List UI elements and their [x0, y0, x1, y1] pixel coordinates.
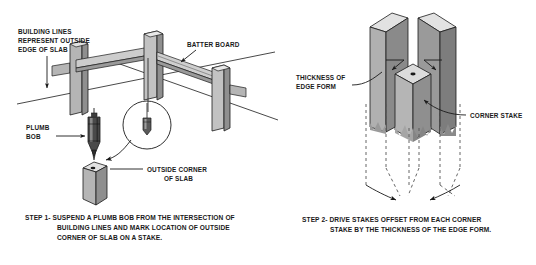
- corner-stake-label: CORNER STAKE: [470, 112, 523, 119]
- figure-root: BUILDING LINES REPRESENT OUTSIDE EDGE OF…: [0, 0, 536, 265]
- building-lines-label-line2: REPRESENT OUTSIDE: [18, 37, 90, 44]
- label-outside-corner: OUTSIDE CORNER OF SLAB: [110, 166, 207, 182]
- corner-stake-left-panel: [83, 162, 107, 205]
- step-1-caption-line1: STEP 1- SUSPEND A PLUMB BOB FROM THE INT…: [25, 214, 235, 221]
- step-1-caption: STEP 1- SUSPEND A PLUMB BOB FROM THE INT…: [25, 214, 235, 241]
- plumb-bob-label-line1: PLUMB: [26, 124, 50, 131]
- label-plumb-bob: PLUMB BOB: [26, 124, 85, 140]
- offset-arrows: [366, 185, 460, 200]
- batter-board-post-middle: [144, 31, 163, 100]
- building-lines-label-line1: BUILDING LINES: [18, 28, 72, 35]
- thickness-label-line2: EDGE FORM: [296, 83, 336, 90]
- plumb-bob-detail: [143, 118, 151, 135]
- right-panel: THICKNESS OF EDGE FORM CORNER STAKE STEP…: [296, 13, 523, 233]
- step-2-caption-line1: STEP 2- DRIVE STAKES OFFSET FROM EACH CO…: [302, 216, 481, 223]
- batter-board-post-right: [212, 65, 246, 131]
- step-1-caption-line3: CORNER OF SLAB ON A STAKE.: [57, 234, 162, 241]
- label-batter-board: BATTER BOARD: [181, 41, 240, 62]
- step-1-caption-line2: BUILDING LINES AND MARK LOCATION OF OUTS…: [57, 224, 230, 231]
- batter-board-label: BATTER BOARD: [187, 41, 240, 48]
- detail-callout-circle: [106, 101, 171, 160]
- plumb-bob-label-line2: BOB: [26, 133, 41, 140]
- outside-corner-label-line1: OUTSIDE CORNER: [147, 166, 207, 173]
- building-lines-label-line3: EDGE OF SLAB: [18, 46, 68, 53]
- thickness-label-line1: THICKNESS OF: [296, 74, 345, 81]
- step-2-caption-line2: STAKE BY THE THICKNESS OF THE EDGE FORM.: [330, 226, 491, 233]
- outside-corner-label-line2: OF SLAB: [164, 175, 193, 182]
- plumb-bob: [88, 108, 100, 160]
- label-thickness-of-edge-form: THICKNESS OF EDGE FORM: [296, 72, 382, 90]
- left-panel: BUILDING LINES REPRESENT OUTSIDE EDGE OF…: [17, 28, 278, 241]
- step-2-caption: STEP 2- DRIVE STAKES OFFSET FROM EACH CO…: [302, 216, 491, 233]
- corner-stake-right-panel: [395, 64, 431, 142]
